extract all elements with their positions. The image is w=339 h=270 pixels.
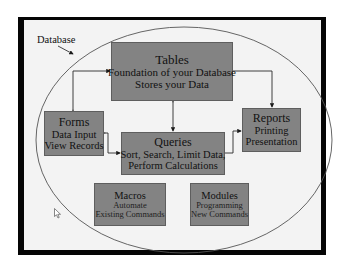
database-label: Database xyxy=(37,34,75,45)
queries-box: Queries Sort, Search, Limit Data, Perfor… xyxy=(121,132,225,175)
tables-line-2: Stores your Data xyxy=(135,79,209,91)
forms-box: Forms Data Input View Records xyxy=(44,111,104,156)
mouse-pointer-icon xyxy=(54,208,62,219)
reports-line-1: Printing xyxy=(255,125,289,136)
queries-line-1: Sort, Search, Limit Data, xyxy=(121,149,226,160)
reports-line-2: Presentation xyxy=(246,136,298,147)
macros-box: Macros Automate Existing Commands xyxy=(94,183,166,226)
modules-box: Modules Programming New Commands xyxy=(190,183,249,226)
modules-line-2: New Commands xyxy=(191,210,248,219)
forms-line-2: View Records xyxy=(44,140,103,151)
tables-box: Tables Foundation of your Database Store… xyxy=(111,42,233,101)
reports-title: Reports xyxy=(253,112,290,125)
forms-title: Forms xyxy=(59,116,90,129)
tables-line-1: Foundation of your Database xyxy=(108,67,236,79)
macros-line-2: Existing Commands xyxy=(95,210,164,219)
tables-title: Tables xyxy=(155,53,189,67)
reports-box: Reports Printing Presentation xyxy=(242,108,301,152)
queries-title: Queries xyxy=(154,136,191,149)
queries-line-2: Perform Calculations xyxy=(128,160,218,171)
forms-line-1: Data Input xyxy=(52,129,97,140)
